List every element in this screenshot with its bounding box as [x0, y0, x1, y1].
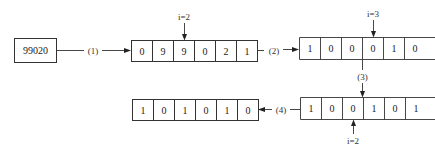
array-3-cell: 1 — [309, 103, 314, 114]
step-1-arrow: (1) — [57, 46, 132, 56]
arrowhead-icon — [124, 48, 131, 53]
array-3-cell: 0 — [393, 103, 398, 114]
array-2-cell: 1 — [392, 43, 397, 54]
array-1-cell: 0 — [203, 46, 208, 57]
array-1-cell: 1 — [245, 46, 250, 57]
arrowhead-icon — [258, 107, 265, 112]
array-4-cell: 1 — [141, 105, 146, 116]
array-1-pointer: i=2 — [178, 12, 190, 41]
step-3-arrow: (3) — [357, 60, 368, 98]
array-4-cell: 1 — [183, 105, 188, 116]
array-2-pointer-label: i=3 — [367, 9, 380, 19]
input-value: 99020 — [23, 45, 48, 56]
array-1-pointer-label: i=2 — [178, 12, 190, 22]
array-2-cell: 1 — [308, 43, 313, 54]
array-4: 1 0 1 0 1 0 — [133, 100, 259, 121]
array-2-pointer: i=3 — [367, 9, 380, 38]
step-3-label: (3) — [357, 72, 368, 82]
arrowhead-icon — [371, 31, 376, 38]
array-2-cell: 0 — [329, 43, 334, 54]
array-1-cell: 0 — [140, 46, 145, 57]
array-2-cell: 0 — [413, 43, 418, 54]
array-1-cell: 2 — [224, 46, 229, 57]
array-3-cell: 0 — [351, 103, 356, 114]
step-1-label: (1) — [88, 46, 99, 56]
arrowhead-icon — [182, 34, 187, 41]
array-3-cell: 0 — [330, 103, 335, 114]
array-1-cell: 9 — [182, 46, 187, 57]
array-4-cell: 0 — [204, 105, 209, 116]
step-2-arrow: (2) — [258, 46, 300, 56]
array-4-cell: 0 — [162, 105, 167, 116]
array-1-cell: 9 — [161, 46, 166, 57]
array-4-cell: 1 — [225, 105, 230, 116]
arrowhead-icon — [360, 91, 365, 98]
step-4-arrow: (4) — [258, 105, 301, 115]
array-3-cell: 1 — [372, 103, 377, 114]
array-3-pointer-label: i=2 — [347, 136, 359, 146]
input-box: 99020 — [15, 39, 57, 63]
array-3-cell: 1 — [414, 103, 419, 114]
array-3-pointer: i=2 — [347, 120, 359, 147]
step-2-label: (2) — [269, 46, 280, 56]
array-1: 0 9 9 0 2 1 — [132, 41, 258, 62]
array-4-cell: 0 — [246, 105, 251, 116]
array-2-cell: 0 — [350, 43, 355, 54]
step-4-label: (4) — [276, 105, 287, 115]
arrowhead-icon — [292, 47, 299, 52]
array-2-cell: 0 — [371, 43, 376, 54]
arrowhead-icon — [351, 120, 356, 127]
array-3: 1 0 0 1 0 1 — [301, 98, 435, 120]
conversion-diagram: 99020 (1) 0 9 9 0 2 1 i=2 (2) — [0, 0, 435, 153]
array-2: 1 0 0 0 1 0 — [300, 38, 435, 60]
